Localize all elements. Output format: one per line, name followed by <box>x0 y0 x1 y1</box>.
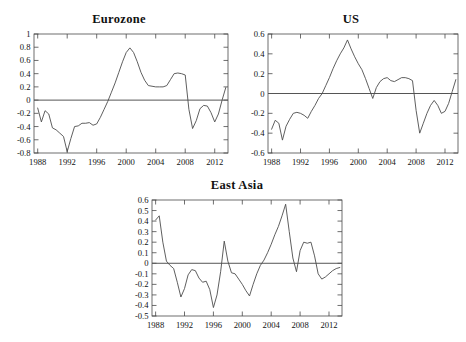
x-tick-label: 2012 <box>320 320 337 330</box>
y-tick-label: 0.4 <box>20 69 31 79</box>
y-tick-label: -0.2 <box>17 108 31 118</box>
y-tick-label: 0.5 <box>138 206 149 216</box>
y-tick-label: -0.3 <box>135 290 149 300</box>
x-tick-label: 1996 <box>205 320 223 330</box>
x-tick-label: 1988 <box>147 320 164 330</box>
x-tick-label: 2004 <box>263 320 281 330</box>
y-tick-label: -0.4 <box>251 128 265 138</box>
panel-title-east-asia: East Asia <box>122 176 352 194</box>
panel-title-eurozone: Eurozone <box>6 10 232 28</box>
y-tick-label: 0.6 <box>254 29 265 39</box>
x-tick-label: 2000 <box>234 320 251 330</box>
panel-east-asia: East Asia 0.60.50.40.30.20.10-0.1-0.2-0.… <box>122 176 352 338</box>
x-tick-label: 2008 <box>177 157 194 167</box>
y-tick-label: -0.2 <box>135 279 149 289</box>
panel-title-us: US <box>240 10 462 28</box>
y-tick-label: 0 <box>144 258 148 268</box>
x-tick-label: 2008 <box>292 320 309 330</box>
y-tick-label: 0 <box>26 95 30 105</box>
y-tick-label: 0.2 <box>254 69 265 79</box>
y-tick-label: -0.2 <box>251 108 265 118</box>
y-tick-label: 0.6 <box>138 195 149 205</box>
y-tick-label: 0.6 <box>20 55 31 65</box>
x-tick-label: 1992 <box>59 157 76 167</box>
chart-eurozone: 10.80.60.40.20-0.2-0.4-0.6-0.81988199219… <box>6 28 232 173</box>
figure-multi-panel-line-charts: Eurozone 10.80.60.40.20-0.2-0.4-0.6-0.81… <box>0 0 466 342</box>
x-tick-label: 1992 <box>176 320 193 330</box>
y-tick-label: 0.8 <box>20 42 31 52</box>
x-tick-label: 1996 <box>321 157 339 167</box>
y-tick-label: 0.1 <box>138 248 149 258</box>
x-tick-label: 1996 <box>88 157 106 167</box>
chart-us: 0.60.40.20-0.2-0.4-0.6198819921996200020… <box>240 28 462 173</box>
data-series-line <box>156 204 340 307</box>
x-tick-label: 2012 <box>436 157 453 167</box>
y-tick-label: -0.6 <box>17 135 31 145</box>
y-tick-label: 0.4 <box>254 49 265 59</box>
x-tick-label: 2012 <box>206 157 223 167</box>
y-tick-label: 0.2 <box>138 237 149 247</box>
panel-eurozone: Eurozone 10.80.60.40.20-0.2-0.4-0.6-0.81… <box>6 10 232 175</box>
y-tick-label: 0.2 <box>20 82 31 92</box>
x-tick-label: 1992 <box>292 157 309 167</box>
x-tick-label: 1988 <box>263 157 280 167</box>
y-tick-label: 0 <box>260 89 264 99</box>
x-tick-label: 2000 <box>118 157 135 167</box>
x-tick-label: 2008 <box>408 157 425 167</box>
y-tick-label: -0.4 <box>17 122 31 132</box>
x-tick-label: 2000 <box>350 157 367 167</box>
y-tick-label: 1 <box>26 29 30 39</box>
x-tick-label: 2004 <box>147 157 165 167</box>
y-tick-label: 0.3 <box>138 227 149 237</box>
x-tick-label: 2004 <box>379 157 397 167</box>
y-tick-label: 0.4 <box>138 216 149 226</box>
data-series-line <box>272 40 456 140</box>
x-tick-label: 1988 <box>29 157 46 167</box>
panel-us: US 0.60.40.20-0.2-0.4-0.6198819921996200… <box>240 10 462 175</box>
y-tick-label: -0.1 <box>135 269 149 279</box>
y-tick-label: -0.4 <box>135 300 149 310</box>
chart-east-asia: 0.60.50.40.30.20.10-0.1-0.2-0.3-0.4-0.51… <box>122 194 352 336</box>
